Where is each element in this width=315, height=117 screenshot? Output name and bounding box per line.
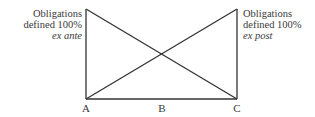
- label-line: Obligations: [23, 8, 82, 19]
- label-line: Obligations: [243, 8, 302, 19]
- ex-post-label: Obligations defined 100% ex post: [243, 8, 302, 41]
- point-c-label: C: [233, 102, 240, 114]
- point-b-label: B: [158, 102, 165, 114]
- label-line: defined 100%: [23, 19, 82, 30]
- label-line: defined 100%: [243, 19, 302, 30]
- ex-ante-label: Obligations defined 100% ex ante: [23, 8, 82, 41]
- label-line: ex post: [243, 30, 302, 41]
- point-a-label: A: [82, 102, 90, 114]
- label-line: ex ante: [23, 30, 82, 41]
